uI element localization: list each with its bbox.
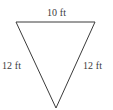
left-side-length-label: 12 ft (2, 60, 21, 71)
top-side-length-label: 10 ft (0, 7, 113, 18)
triangle-figure: 10 ft 12 ft 12 ft (0, 0, 113, 110)
right-side-length-label: 12 ft (83, 60, 102, 71)
